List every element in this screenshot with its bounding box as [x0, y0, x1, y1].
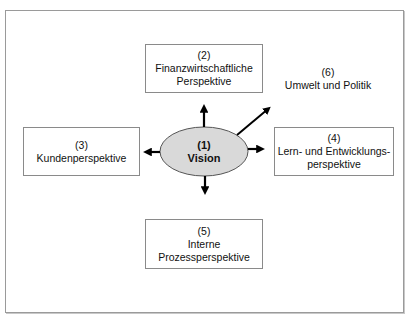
vision-label: (1) Vision	[160, 127, 248, 176]
vision-number: (1)	[197, 139, 210, 152]
vision-title: Vision	[188, 152, 221, 165]
